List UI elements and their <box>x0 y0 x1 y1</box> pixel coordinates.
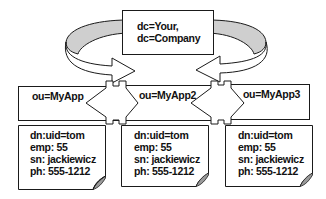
entry-line: ph: 555-1212 <box>134 165 194 177</box>
entry-line: sn: jackiewicz <box>30 153 96 165</box>
entry-line: sn: jackiewicz <box>238 153 304 165</box>
entry-note-2[interactable]: dn:uid=tom emp: 55 sn: jackiewicz ph: 55… <box>122 126 209 187</box>
entry-note-1[interactable]: dn:uid=tom emp: 55 sn: jackiewicz ph: 55… <box>19 126 106 190</box>
entry-note-3[interactable]: dn:uid=tom emp: 55 sn: jackiewicz ph: 55… <box>226 126 313 187</box>
root-node-line-2: dc=Company <box>137 32 201 44</box>
entry-line: emp: 55 <box>134 141 172 153</box>
entry-line: emp: 55 <box>30 141 68 153</box>
entry-line: dn:uid=tom <box>30 129 84 141</box>
entry-line: ph: 555-1212 <box>238 165 298 177</box>
ou-node-label: ou=MyApp2 <box>139 89 197 101</box>
entry-line: dn:uid=tom <box>134 129 188 141</box>
entry-line: dn:uid=tom <box>238 129 292 141</box>
ou-node-label: ou=MyApp <box>32 90 84 102</box>
curved-arrow-left-band <box>66 20 128 54</box>
ldap-replication-diagram: dc=Your, dc=Company ou=MyApp ou=MyApp2 o… <box>0 0 326 199</box>
entry-line: sn: jackiewicz <box>134 153 200 165</box>
root-node-dc[interactable]: dc=Your, dc=Company <box>123 11 214 55</box>
root-node-line-1: dc=Your, <box>137 20 179 32</box>
curved-arrow-right-band <box>208 20 266 54</box>
entry-line: emp: 55 <box>238 141 276 153</box>
entry-line: ph: 555-1212 <box>30 165 90 177</box>
ou-node-label: ou=MyApp3 <box>243 88 301 100</box>
